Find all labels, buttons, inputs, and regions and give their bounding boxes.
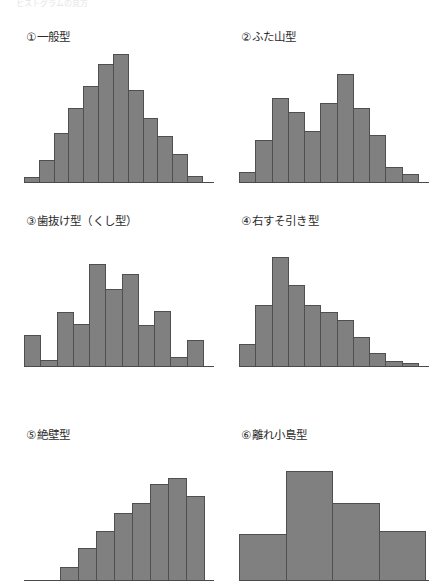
- histogram-bar: [170, 357, 187, 366]
- bar-series: [239, 74, 429, 182]
- histogram-bar: [337, 74, 354, 182]
- panel-cliff-type: ⑤絶壁型: [24, 428, 219, 581]
- histogram-bar: [138, 325, 155, 366]
- panel-isolated-island-type: ⑥離れ小島型: [239, 428, 430, 581]
- histogram-plot: [24, 237, 214, 367]
- histogram-bar: [105, 289, 122, 366]
- histogram-bar: [154, 311, 171, 366]
- histogram-bar: [288, 112, 305, 182]
- histogram-bar: [186, 496, 205, 580]
- histogram-bar: [132, 503, 151, 580]
- panel-title: ④右すそ引き型: [241, 214, 430, 228]
- histogram-bar: [320, 103, 337, 182]
- axis-baseline: [239, 182, 429, 183]
- histogram-bar: [255, 140, 272, 182]
- histogram-bar: [369, 135, 386, 182]
- bar-series: [24, 478, 214, 580]
- histogram-bar: [128, 90, 144, 182]
- histogram-bar: [78, 548, 97, 580]
- panel-comb-type: ③歯抜け型（くし型）: [24, 214, 219, 367]
- histogram-plot: [239, 53, 429, 183]
- histogram-bar: [239, 172, 256, 182]
- histogram-bar: [172, 154, 188, 182]
- histogram-bar: [143, 118, 159, 182]
- histogram-bar: [68, 108, 84, 182]
- histogram-bar: [385, 167, 402, 182]
- histogram-bar: [24, 335, 41, 366]
- histogram-bar: [320, 312, 337, 366]
- histogram-bar: [239, 534, 287, 580]
- histogram-bar: [83, 86, 99, 182]
- histogram-bar: [89, 264, 106, 366]
- histogram-bar: [150, 484, 169, 580]
- histogram-bar: [98, 64, 114, 182]
- panel-general-type: ①一般型: [24, 30, 219, 183]
- histogram-bar: [255, 305, 272, 366]
- histogram-bar: [39, 160, 55, 182]
- histogram-bar: [402, 174, 419, 182]
- histogram-bar: [187, 340, 204, 366]
- panel-twin-peak-type: ②ふた山型: [239, 30, 430, 183]
- axis-baseline: [24, 366, 214, 367]
- histogram-bar: [113, 54, 129, 182]
- histogram-bar: [369, 353, 386, 366]
- histogram-plot: [24, 451, 214, 581]
- histogram-bar: [168, 478, 187, 580]
- histogram-bar: [272, 257, 289, 366]
- histogram-bar: [337, 320, 354, 366]
- axis-baseline: [239, 366, 429, 367]
- histogram-bar: [54, 133, 70, 182]
- histogram-bar: [332, 503, 380, 580]
- histogram-bar: [60, 567, 79, 580]
- panel-title: ⑥離れ小島型: [241, 428, 430, 442]
- histogram-plot: [24, 53, 214, 183]
- histogram-bar: [57, 312, 74, 366]
- histogram-plot: [239, 237, 429, 367]
- panel-title: ⑤絶壁型: [26, 428, 219, 442]
- bar-series: [239, 257, 429, 366]
- histogram-bar: [379, 531, 427, 580]
- panel-title: ③歯抜け型（くし型）: [26, 214, 219, 228]
- axis-baseline: [24, 182, 214, 183]
- histogram-bar: [239, 344, 256, 366]
- histogram-bar: [122, 274, 139, 366]
- histogram-bar: [353, 337, 370, 366]
- clipped-header-text: ヒストグラムの見方: [16, 0, 166, 7]
- histogram-bar: [114, 513, 133, 580]
- histogram-bar: [96, 531, 115, 580]
- histogram-bar: [286, 471, 334, 580]
- bar-series: [239, 471, 429, 580]
- histogram-bar: [304, 305, 321, 366]
- histogram-bar: [157, 136, 173, 182]
- histogram-bar: [272, 98, 289, 182]
- bar-series: [24, 264, 214, 366]
- histogram-bar: [73, 324, 90, 366]
- histogram-bar: [304, 131, 321, 182]
- panel-title: ②ふた山型: [241, 30, 430, 44]
- panel-title: ①一般型: [26, 30, 219, 44]
- histogram-bar: [288, 285, 305, 366]
- histogram-plot: [239, 451, 429, 581]
- bar-series: [24, 54, 214, 182]
- histogram-bar: [353, 108, 370, 182]
- panel-right-skewed-type: ④右すそ引き型: [239, 214, 430, 367]
